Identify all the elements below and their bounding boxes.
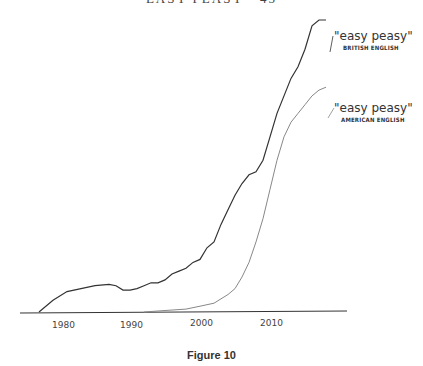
x-axis [20, 311, 347, 313]
x-tick-2000: 2000 [190, 318, 213, 328]
legend-american-main: "easy peasy" [334, 101, 413, 115]
leader-british [330, 36, 333, 52]
line-chart: "easy peasy" BRITISH ENGLISH "easy peasy… [0, 0, 423, 366]
x-tick-2010: 2010 [260, 318, 283, 328]
x-tick-1980: 1980 [52, 320, 75, 330]
series-line-british [39, 20, 326, 312]
series-line-american [144, 87, 326, 312]
x-tick-1990: 1990 [120, 320, 143, 330]
legend-british-sub: BRITISH ENGLISH [343, 44, 399, 51]
legend-british-main: "easy peasy" [334, 29, 413, 43]
figure-caption: Figure 10 [0, 349, 423, 361]
legend-american-sub: AMERICAN ENGLISH [341, 116, 405, 123]
